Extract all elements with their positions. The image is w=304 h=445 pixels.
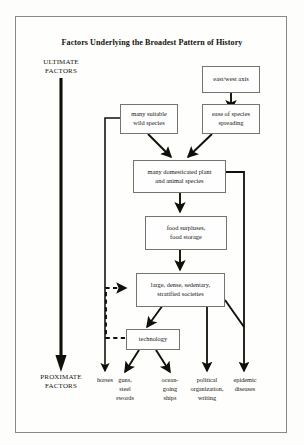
edge-technology-feedback-to-societies xyxy=(106,288,126,338)
outcome-guns-line2: steel xyxy=(105,385,145,394)
node-societies-line1: large, dense, sedentary, xyxy=(151,281,210,290)
node-domesticated-line2: and animal species xyxy=(148,177,212,186)
node-ease-of-species-spreading[interactable]: ease of species spreading xyxy=(202,104,260,134)
node-domesticated-line1: many domesticated plant xyxy=(148,168,212,177)
outcome-epidemic-line2: diseases xyxy=(224,385,266,394)
edge-wild-to-domesticated xyxy=(148,134,171,157)
ultimate-to-proximate-axis-arrow xyxy=(55,78,66,372)
node-east-west-axis-label: east/west axis xyxy=(213,75,248,84)
node-technology[interactable]: technology xyxy=(126,329,180,350)
edge-technology-to-guns xyxy=(125,350,139,372)
node-technology-label: technology xyxy=(139,335,167,344)
diagram-page: Factors Underlying the Broadest Pattern … xyxy=(0,0,304,445)
node-spreading-line1: ease of species xyxy=(212,110,250,119)
node-food-line2: food storage xyxy=(167,233,206,242)
outcome-guns-steel-swords: guns, steel swords xyxy=(105,376,145,402)
edge-societies-to-epidemic xyxy=(225,300,244,327)
node-stratified-societies[interactable]: large, dense, sedentary, stratified soci… xyxy=(136,273,225,307)
outcome-guns-line3: swords xyxy=(105,394,145,403)
ultimate-factors-line2: FACTORS xyxy=(28,67,94,76)
edge-technology-to-ships xyxy=(156,350,170,372)
node-many-domesticated-species[interactable]: many domesticated plant and animal speci… xyxy=(133,160,226,193)
edge-spreading-to-domesticated xyxy=(188,134,212,157)
outcome-epidemic-diseases: epidemic diseases xyxy=(224,376,266,394)
node-wild-species-line1: many suitable xyxy=(131,110,167,119)
node-many-suitable-wild-species[interactable]: many suitable wild species xyxy=(120,104,178,134)
node-food-surpluses[interactable]: food surpluses, food storage xyxy=(145,216,227,250)
node-spreading-line2: spreading xyxy=(212,119,250,128)
node-societies-line2: stratified societies xyxy=(151,290,210,299)
ultimate-factors-label: ULTIMATE FACTORS xyxy=(28,58,94,76)
outcome-political-line3: writing xyxy=(176,394,238,403)
edge-domesticated-to-epidemic xyxy=(226,172,244,371)
outcome-guns-line1: guns, xyxy=(105,376,145,385)
edge-wild-to-horses xyxy=(105,118,120,371)
node-east-west-axis[interactable]: east/west axis xyxy=(202,66,260,93)
node-wild-species-line2: wild species xyxy=(131,119,167,128)
outcome-epidemic-line1: epidemic xyxy=(224,376,266,385)
ultimate-factors-line1: ULTIMATE xyxy=(28,58,94,67)
node-food-line1: food surpluses, xyxy=(167,224,206,233)
edge-societies-to-technology xyxy=(147,305,163,327)
